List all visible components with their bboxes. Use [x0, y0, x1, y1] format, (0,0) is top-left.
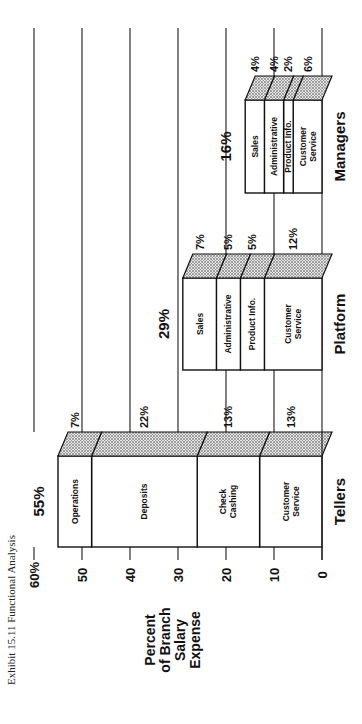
segment-label: Service — [291, 486, 301, 517]
stacked-bar-chart: CustomerService13%CheckCashing13%Deposit… — [0, 0, 362, 724]
bar-segment-top — [92, 432, 208, 456]
segment-value-label: 6% — [302, 56, 314, 72]
axis-tick-label: 50 — [75, 568, 90, 582]
segment-label: Service — [293, 309, 303, 340]
segment-label: Administrative — [269, 117, 279, 176]
bar-segment-top — [197, 432, 269, 456]
axis-tick-label: 60% — [27, 562, 42, 588]
axis-tick-label: 20 — [219, 568, 234, 582]
segment-label: Service — [308, 131, 318, 162]
y-axis-title: Expense — [187, 611, 203, 669]
bar-segment-top — [260, 432, 332, 456]
segment-label: Customer — [283, 303, 293, 343]
segment-label: Sales — [195, 313, 205, 335]
category-label: Managers — [331, 111, 348, 181]
segment-label: Sales — [250, 135, 260, 157]
y-axis-title: of Branch — [157, 607, 173, 672]
bar-segment-top — [264, 254, 332, 278]
bar-total-label: 29% — [155, 309, 172, 339]
axis-tick-label: 30 — [171, 568, 186, 582]
segment-value-label: 7% — [194, 234, 206, 250]
y-axis-title: Salary — [172, 619, 188, 661]
segment-value-label: 13% — [285, 406, 297, 428]
segment-value-label: 4% — [249, 56, 261, 72]
segment-value-label: 5% — [246, 234, 258, 250]
segment-label: Deposits — [139, 483, 149, 519]
segment-label: Operations — [70, 479, 80, 524]
segment-value-label: 4% — [268, 56, 280, 72]
segment-label: Customer — [298, 126, 308, 166]
segment-label: Administrative — [223, 294, 233, 353]
segment-label: Check — [218, 488, 228, 514]
segment-label: Customer — [281, 481, 291, 521]
segment-value-label: 12% — [287, 228, 299, 250]
segment-label: Product Info. — [247, 298, 257, 350]
category-label: Platform — [331, 294, 348, 355]
y-axis-title: Percent — [142, 614, 158, 666]
chart-title: Exhibit 15.11 Functional Analysis — [5, 535, 17, 685]
bar-total-label: 16% — [217, 131, 234, 161]
axis-tick-label: 10 — [267, 568, 282, 582]
axis-tick-label: 40 — [123, 568, 138, 582]
bar-total-label: 55% — [30, 486, 47, 516]
segment-value-label: 7% — [69, 412, 81, 428]
axis-tick-label: 0 — [315, 571, 330, 578]
segment-value-label: 13% — [222, 406, 234, 428]
segment-label: Cashing — [228, 485, 238, 519]
category-label: Tellers — [331, 478, 348, 525]
segment-value-label: 5% — [222, 234, 234, 250]
segment-value-label: 22% — [138, 406, 150, 428]
segment-label: Product Info. — [283, 120, 293, 172]
segment-value-label: 2% — [282, 56, 294, 72]
